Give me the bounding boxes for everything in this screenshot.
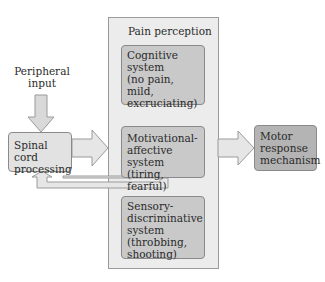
motor-line2: response [260, 142, 311, 154]
sensory-line1: Sensory- [127, 200, 199, 212]
right-arrow-spinal-icon [72, 130, 108, 166]
sensory-line3: system [127, 224, 199, 236]
right-arrow-motor-icon [218, 131, 254, 165]
cognitive-line2: system [127, 61, 199, 73]
sensory-discriminative-box: Sensory- discriminative system (throbbin… [121, 196, 205, 259]
motivational-line1: Motivational- [127, 132, 199, 144]
motor-line3: mechanism [260, 154, 311, 166]
motivational-line3: (tiring, fearful) [127, 168, 199, 192]
sensory-line2: discriminative [127, 212, 199, 224]
sensory-line4: (throbbing, [127, 236, 199, 248]
motor-line1: Motor [260, 130, 311, 142]
cognitive-line3: (no pain, mild, [127, 73, 199, 97]
cognitive-line1: Cognitive [127, 49, 199, 61]
cognitive-system-box: Cognitive system (no pain, mild, excruci… [121, 45, 205, 105]
sensory-line5: shooting) [127, 248, 199, 260]
motivational-line2: affective system [127, 144, 199, 168]
cognitive-line4: excruciating) [127, 97, 199, 109]
motivational-affective-box: Motivational- affective system (tiring, … [121, 126, 205, 178]
spinal-line1: Spinal cord [14, 139, 66, 163]
down-arrow-icon [28, 95, 54, 132]
motor-response-box: Motor response mechanism [254, 125, 317, 171]
spinal-cord-processing-box: Spinal cord processing [8, 132, 72, 172]
spinal-line2: processing [14, 163, 66, 175]
